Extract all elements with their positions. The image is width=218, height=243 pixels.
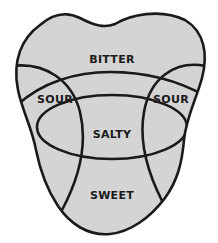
tongue-taste-map: BITTER SOUR SOUR SALTY SWEET	[0, 0, 218, 243]
label-sweet: SWEET	[90, 189, 134, 202]
label-sour-right: SOUR	[153, 93, 189, 106]
label-bitter: BITTER	[89, 53, 135, 66]
label-sour-left: SOUR	[37, 93, 73, 106]
label-salty: SALTY	[93, 128, 132, 141]
